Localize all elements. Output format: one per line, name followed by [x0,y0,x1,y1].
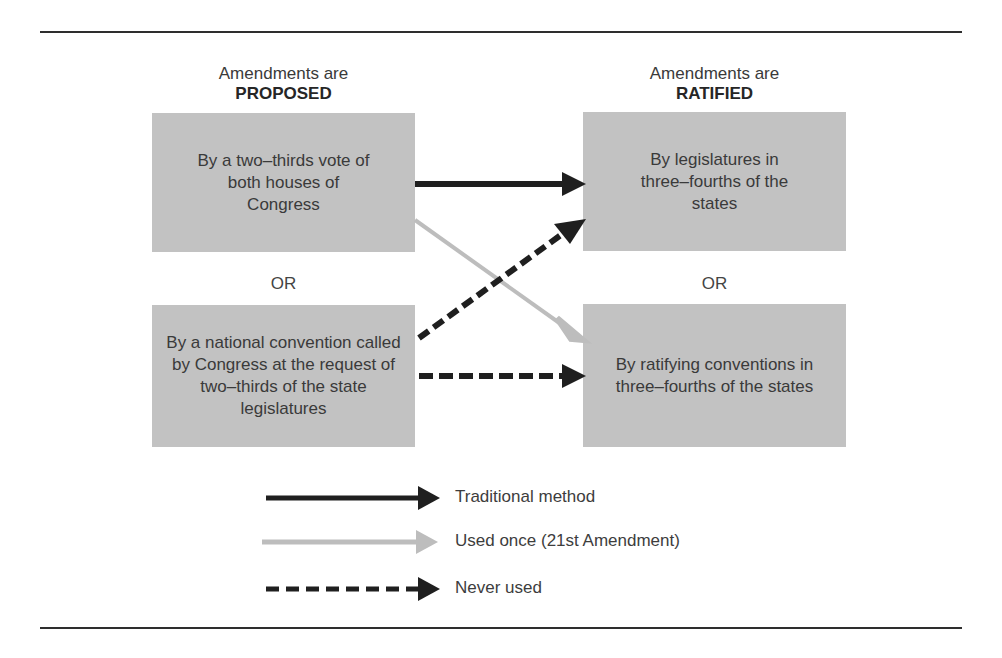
arrow-never-used-horizontal [419,364,586,388]
legend-label-traditional: Traditional method [455,487,595,507]
connection-arrows [0,0,1002,658]
bottom-rule [40,627,962,629]
legend-arrow-used-once [262,530,438,554]
legend-arrow-never-used [266,577,440,601]
legend-label-never-used: Never used [455,578,542,598]
arrow-traditional [415,172,586,196]
legend-label-used-once: Used once (21st Amendment) [455,531,680,551]
legend-arrow-traditional [266,486,440,510]
